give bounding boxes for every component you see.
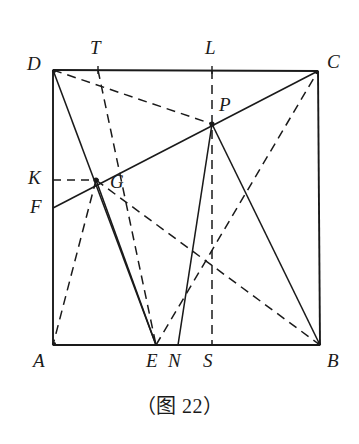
side-CD — [53, 70, 318, 71]
point-label-B: B — [327, 351, 339, 370]
point-label-K: K — [28, 168, 41, 187]
point-dot-B — [317, 342, 321, 346]
dashed-construction-lines — [53, 70, 320, 345]
geometry-diagram-svg — [0, 0, 359, 444]
point-label-S: S — [203, 351, 213, 370]
point-label-L: L — [205, 38, 216, 57]
point-label-T: T — [90, 38, 101, 57]
segment-P-to-N — [178, 124, 212, 345]
point-label-P: P — [219, 95, 231, 114]
solid-construction-lines — [53, 70, 320, 345]
point-label-F: F — [30, 197, 42, 216]
square-outline — [53, 70, 320, 345]
segment-P-to-B — [212, 124, 320, 345]
point-label-A: A — [33, 351, 45, 370]
point-dot-C — [315, 70, 319, 74]
point-dot-P — [209, 121, 214, 126]
point-label-C: C — [327, 52, 340, 71]
segment-F-to-C-through-G-P — [53, 71, 318, 208]
point-label-G: G — [110, 172, 124, 191]
geometry-figure: D T L C P K G F A E N S B （图 22） — [0, 0, 359, 444]
marked-intersection-points — [52, 69, 321, 346]
point-label-E: E — [146, 351, 158, 370]
point-label-N: N — [168, 351, 181, 370]
segment-G-to-B — [96, 180, 320, 345]
point-dot-D — [52, 69, 56, 73]
side-BC — [318, 71, 320, 345]
segment-D-to-P — [53, 70, 212, 124]
point-dot-G — [93, 177, 98, 182]
point-dot-A — [52, 342, 56, 346]
point-label-D: D — [27, 54, 41, 73]
figure-caption: （图 22） — [0, 390, 359, 419]
